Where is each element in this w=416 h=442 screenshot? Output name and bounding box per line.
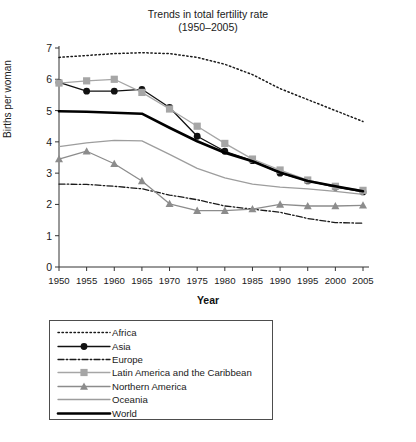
data-point-marker: [138, 89, 145, 96]
x-tick-label: 2000: [325, 275, 346, 286]
legend-item-asia[interactable]: Asia: [50, 339, 272, 352]
legend-label: Oceania: [112, 394, 148, 405]
x-tick-label: 1990: [269, 275, 290, 286]
data-point-marker: [83, 88, 90, 95]
data-point-marker: [83, 147, 91, 154]
y-tick-label: 2: [46, 198, 52, 210]
x-tick-label: 1975: [187, 275, 208, 286]
x-tick-label: 1970: [159, 275, 180, 286]
x-tick-label: 1980: [214, 275, 235, 286]
y-tick-label: 0: [46, 261, 52, 273]
chart-title: Trends in total fertility rate: [0, 8, 416, 21]
fertility-chart-figure: Trends in total fertility rate (1950–200…: [0, 0, 416, 442]
legend-item-africa[interactable]: Africa: [50, 326, 272, 339]
legend-swatch-icon: [56, 407, 112, 420]
legend-item-world[interactable]: World: [50, 406, 272, 419]
series-asia: [56, 79, 367, 195]
x-tick-label: 1985: [242, 275, 263, 286]
legend-swatch-icon: [56, 340, 112, 353]
legend-swatch-icon: [56, 380, 112, 393]
legend-label: Europe: [112, 354, 143, 365]
x-tick-label: 2005: [352, 275, 373, 286]
series-northern-america: [55, 147, 367, 214]
legend-item-europe[interactable]: Europe: [50, 353, 272, 366]
x-axis-label: Year: [0, 294, 416, 306]
y-tick-label: 4: [46, 136, 52, 148]
legend-item-latin-america-and-the-caribbean[interactable]: Latin America and the Caribbean: [50, 366, 272, 379]
legend-marker: [81, 343, 88, 350]
legend-swatch-icon: [56, 353, 112, 366]
x-tick-label: 1995: [297, 275, 318, 286]
y-tick-label: 1: [46, 230, 52, 242]
series-line: [59, 151, 363, 210]
data-point-marker: [166, 105, 173, 112]
series-latin-america-and-the-caribbean: [55, 76, 366, 194]
legend-label: Northern America: [112, 381, 187, 392]
data-point-marker: [138, 177, 146, 184]
data-point-marker: [111, 76, 118, 83]
legend-label: World: [112, 408, 137, 419]
y-axis-label: Births per woman: [2, 60, 13, 138]
y-tick-label: 6: [46, 73, 52, 85]
line-chart-svg: 0123456719501955196019651970197519801985…: [0, 38, 416, 288]
plot-area: 0123456719501955196019651970197519801985…: [0, 38, 416, 288]
legend-item-northern-america[interactable]: Northern America: [50, 380, 272, 393]
x-tick-label: 1965: [131, 275, 152, 286]
series-world: [59, 111, 363, 191]
chart-legend: AfricaAsiaEuropeLatin America and the Ca…: [49, 320, 273, 420]
legend-label: Asia: [112, 341, 131, 352]
y-tick-label: 5: [46, 105, 52, 117]
legend-label: Latin America and the Caribbean: [112, 367, 252, 378]
data-point-marker: [111, 88, 118, 95]
chart-subtitle: (1950–2005): [0, 21, 416, 34]
legend-swatch-icon: [56, 326, 112, 339]
legend-swatch-icon: [56, 393, 112, 406]
legend-item-oceania[interactable]: Oceania: [50, 393, 272, 406]
x-tick-label: 1955: [76, 275, 97, 286]
data-point-marker: [110, 160, 118, 167]
legend-swatch-icon: [56, 366, 112, 379]
data-point-marker: [83, 77, 90, 84]
x-tick-label: 1950: [48, 275, 69, 286]
data-point-marker: [194, 133, 201, 140]
y-tick-label: 3: [46, 167, 52, 179]
chart-title-block: Trends in total fertility rate (1950–200…: [0, 8, 416, 34]
data-point-marker: [55, 79, 62, 86]
data-point-marker: [194, 123, 201, 130]
x-tick-label: 1960: [104, 275, 125, 286]
series-line: [59, 111, 363, 191]
legend-label: Africa: [112, 327, 137, 338]
series-line: [59, 82, 363, 192]
y-tick-label: 7: [46, 42, 52, 54]
legend-marker: [80, 369, 87, 376]
data-point-marker: [221, 140, 228, 147]
